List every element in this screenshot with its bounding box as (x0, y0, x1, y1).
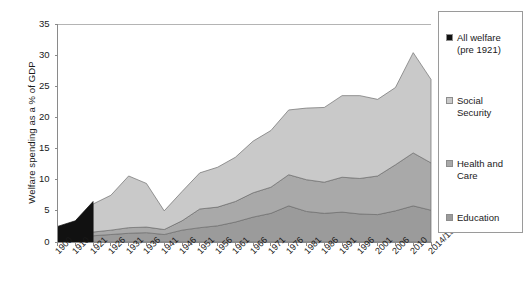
welfare-spending-area-chart: Welfare spending as a % of GDP 051015202… (0, 0, 530, 303)
area-series-all-welfare-pre-1921 (58, 202, 94, 242)
legend-swatch-icon (446, 34, 453, 41)
y-tick-label: 10 (28, 174, 50, 184)
y-tick-label: 20 (28, 112, 50, 122)
y-tick-label: 5 (28, 205, 50, 215)
legend-item: All welfare (pre 1921) (446, 32, 524, 55)
legend-swatch-icon (446, 214, 453, 221)
legend-item: Health and Care (446, 158, 524, 181)
legend-swatch-icon (446, 97, 453, 104)
y-tick-label: 25 (28, 81, 50, 91)
legend-label: Social Security (457, 95, 491, 118)
y-tick-label: 0 (28, 237, 50, 247)
legend-label: All welfare (pre 1921) (457, 32, 501, 55)
y-tick-label: 15 (28, 143, 50, 153)
legend-label: Health and Care (457, 158, 503, 181)
legend-item: Education (446, 212, 524, 224)
chart-legend: All welfare (pre 1921)Social SecurityHea… (438, 11, 523, 233)
y-tick-label: 30 (28, 50, 50, 60)
legend-label: Education (457, 212, 499, 224)
y-tick-label: 35 (28, 19, 50, 29)
legend-item: Social Security (446, 95, 524, 118)
legend-swatch-icon (446, 160, 453, 167)
